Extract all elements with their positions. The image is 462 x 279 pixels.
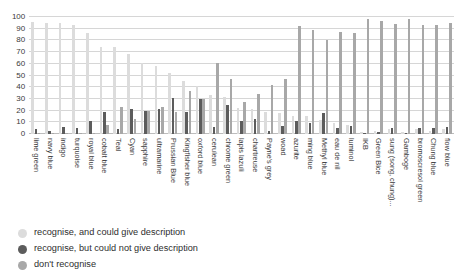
- x-axis-label-text: luminol: [347, 138, 354, 161]
- x-axis-label: turquoise: [70, 136, 84, 224]
- bar-group: [413, 17, 427, 134]
- x-axis-label: indigo: [56, 136, 70, 224]
- x-axis-label-text: turquoise: [73, 138, 80, 168]
- bar: [45, 23, 48, 134]
- bar: [209, 95, 212, 134]
- bar: [127, 54, 130, 134]
- bar: [380, 21, 383, 134]
- bar: [278, 113, 281, 134]
- bar: [65, 133, 68, 134]
- y-tick-label-80: 80: [16, 36, 25, 44]
- bar: [120, 107, 123, 134]
- bar: [158, 109, 161, 134]
- bar: [216, 63, 219, 134]
- x-axis-label: royal blue: [84, 136, 98, 224]
- x-axis-label: Chung blue: [426, 136, 440, 224]
- bar: [59, 23, 62, 134]
- chart-legend: recognise, and could give descriptionrec…: [18, 225, 318, 273]
- x-axis-label: bromoscresol green: [413, 136, 427, 224]
- x-axis-labels: lime greennavy blueindigoturquoiseroyal …: [29, 136, 454, 224]
- bar: [76, 128, 79, 134]
- x-axis-label: chartreuse: [248, 136, 262, 224]
- bar: [435, 25, 438, 134]
- x-axis-label: Teal: [111, 136, 125, 224]
- bar: [336, 128, 339, 134]
- bar: [312, 30, 315, 134]
- y-tick-label-70: 70: [16, 48, 25, 56]
- x-axis-label-text: chrome green: [224, 138, 231, 183]
- bar: [237, 108, 240, 134]
- bar: [230, 79, 233, 134]
- bar: [418, 128, 421, 134]
- y-tick-label-40: 40: [16, 83, 25, 91]
- bar: [305, 116, 308, 134]
- bar: [141, 63, 144, 134]
- bar: [106, 125, 109, 134]
- bar-group: [372, 17, 386, 134]
- x-axis-label: Cyan: [125, 136, 139, 224]
- x-axis-label-text: Teal: [114, 138, 121, 151]
- x-axis-label-text: ming blue: [306, 138, 313, 170]
- bar-group: [152, 17, 166, 134]
- bar: [319, 120, 322, 134]
- bar-group: [344, 17, 358, 134]
- x-axis-label: cobalt blue: [98, 136, 112, 224]
- bar: [268, 131, 271, 135]
- x-axis-label-text: Chung blue: [430, 138, 437, 175]
- bar: [367, 19, 370, 134]
- x-axis-label: cerulean: [207, 136, 221, 224]
- x-axis-label: Gamboge: [399, 136, 413, 224]
- y-tick-label-0: 0: [21, 130, 25, 138]
- x-axis-label-text: Payne's grey: [265, 138, 272, 180]
- x-axis-label: navy blue: [43, 136, 57, 224]
- legend-swatch-icon: [18, 245, 27, 254]
- y-tick-label-100: 100: [12, 13, 25, 21]
- bar: [429, 131, 432, 135]
- y-tick-label-50: 50: [16, 72, 25, 80]
- x-axis-label: Kingfisher blue: [180, 136, 194, 224]
- legend-item[interactable]: recognise, but could not give descriptio…: [18, 241, 318, 257]
- bar-group: [193, 17, 207, 134]
- bar-group: [303, 17, 317, 134]
- y-tick-label-20: 20: [16, 107, 25, 115]
- x-axis-label: ming blue: [303, 136, 317, 224]
- bar: [100, 47, 103, 134]
- bar-group: [56, 17, 70, 134]
- x-axis-label: azurite: [289, 136, 303, 224]
- x-axis-label-text: flow blue: [443, 138, 450, 167]
- bar: [189, 91, 192, 134]
- bar-group: [180, 17, 194, 134]
- bar: [292, 116, 295, 134]
- bar: [405, 133, 408, 134]
- bar: [415, 129, 418, 134]
- bar: [52, 133, 55, 134]
- bar-chart: 0102030405060708090100 lime greennavy bl…: [0, 0, 462, 279]
- legend-item[interactable]: recognise, and could give description: [18, 225, 318, 241]
- bar-group: [399, 17, 413, 134]
- bar: [196, 86, 199, 134]
- bar: [449, 23, 452, 134]
- x-axis-label: luminol: [344, 136, 358, 224]
- bar-group: [358, 17, 372, 134]
- bar: [117, 129, 120, 134]
- bar: [326, 40, 329, 134]
- bar-group: [84, 17, 98, 134]
- x-axis-label-text: oxford blue: [197, 138, 204, 174]
- bar-group: [440, 17, 454, 134]
- bar: [103, 112, 106, 134]
- y-tick-label-30: 30: [16, 95, 25, 103]
- x-axis-label: woad: [276, 136, 290, 224]
- legend-item[interactable]: don't recognise: [18, 257, 318, 273]
- y-axis: 0102030405060708090100: [0, 11, 27, 134]
- bar-group: [262, 17, 276, 134]
- y-tick-label-90: 90: [16, 25, 25, 33]
- bar: [93, 133, 96, 134]
- legend-label: don't recognise: [34, 260, 96, 269]
- bar: [346, 125, 349, 134]
- bar-group: [125, 17, 139, 134]
- bar-group: [426, 17, 440, 134]
- bar: [185, 112, 188, 134]
- x-axis-label: eau de nil: [330, 136, 344, 224]
- bar-group: [317, 17, 331, 134]
- bar: [353, 33, 356, 134]
